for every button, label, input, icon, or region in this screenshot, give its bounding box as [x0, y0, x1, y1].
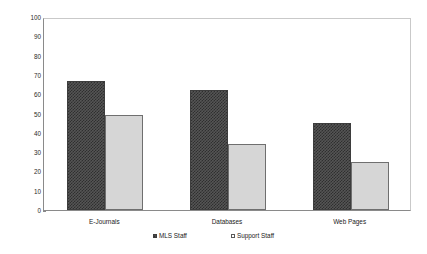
- x-tick-label-e-journals: E-Journals: [54, 216, 154, 227]
- bar-support-staff-databases: [228, 144, 266, 210]
- y-tick-label: 80: [0, 52, 41, 62]
- chart-legend: MLS StaffSupport Staff: [0, 230, 427, 242]
- bar-support-staff-web-pages: [351, 162, 389, 210]
- legend-label: MLS Staff: [159, 231, 187, 241]
- legend-item-mls-staff[interactable]: MLS Staff: [153, 231, 187, 241]
- y-tick-label: 50: [0, 110, 41, 120]
- bar-chart-figure: Number of Libraries Responding 100908070…: [0, 0, 427, 254]
- x-tick-label-databases: Databases: [177, 216, 277, 227]
- legend-swatch-icon: [153, 234, 157, 238]
- y-tick-mark: [43, 211, 46, 212]
- bar-mls-staff-e-journals: [67, 81, 105, 210]
- legend-item-support-staff[interactable]: Support Staff: [231, 231, 274, 241]
- legend-swatch-icon: [231, 234, 235, 238]
- y-tick-label: 90: [0, 32, 41, 42]
- y-tick-label: 40: [0, 129, 41, 139]
- legend-label: Support Staff: [237, 231, 274, 241]
- x-tick-label-web-pages: Web Pages: [300, 216, 400, 227]
- y-tick-label: 60: [0, 90, 41, 100]
- y-tick-label: 100: [0, 13, 41, 23]
- y-tick-label: 70: [0, 71, 41, 81]
- bar-support-staff-e-journals: [105, 115, 143, 210]
- plot-area: [43, 18, 411, 211]
- bar-mls-staff-web-pages: [313, 123, 351, 210]
- bar-mls-staff-databases: [190, 90, 228, 210]
- y-tick-label: 0: [0, 206, 41, 216]
- y-tick-label: 20: [0, 167, 41, 177]
- y-tick-label: 30: [0, 148, 41, 158]
- y-tick-label: 10: [0, 187, 41, 197]
